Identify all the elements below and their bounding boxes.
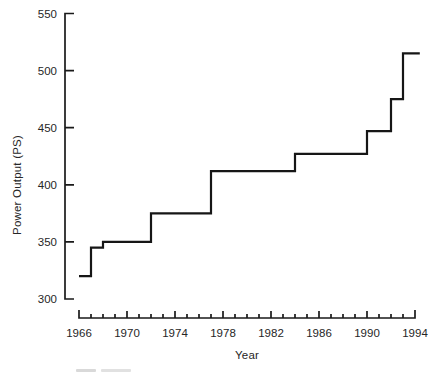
- x-tick-label: 1990: [354, 327, 380, 339]
- step-chart: 3003504004505005501966197019741978198219…: [0, 0, 436, 373]
- x-axis-title: Year: [79, 349, 415, 361]
- y-tick-label: 300: [38, 293, 57, 305]
- x-tick-label: 1994: [402, 327, 428, 339]
- y-tick-label: 450: [38, 122, 57, 134]
- x-axis: [79, 310, 415, 318]
- x-tick-label: 1978: [210, 327, 236, 339]
- y-tick-label: 400: [38, 179, 57, 191]
- power-output-step-line: [79, 53, 420, 276]
- x-tick-label: 1974: [162, 327, 188, 339]
- figure-canvas: 3003504004505005501966197019741978198219…: [0, 0, 436, 373]
- x-tick-label: 1986: [306, 327, 332, 339]
- y-tick-label: 500: [38, 65, 57, 77]
- x-tick-label: 1982: [258, 327, 284, 339]
- y-axis-title: Power Output (PS): [11, 135, 23, 235]
- cropped-caption-remnant: [101, 369, 131, 372]
- y-tick-label: 350: [38, 236, 57, 248]
- x-tick-label: 1966: [66, 327, 92, 339]
- x-tick-label: 1970: [114, 327, 140, 339]
- y-axis: [65, 14, 74, 300]
- y-tick-label: 550: [38, 8, 57, 20]
- cropped-caption-remnant: [76, 369, 96, 372]
